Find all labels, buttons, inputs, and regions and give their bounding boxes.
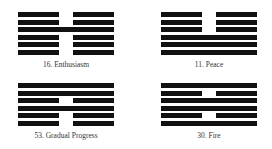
solid-line [161,83,257,88]
broken-line [161,27,257,32]
solid-line [18,91,114,96]
hexagram-11: 11. Peace [161,12,257,55]
broken-line [18,98,114,103]
broken-line [18,20,114,25]
solid-line [18,27,114,32]
hexagram-16: 16. Enthusiasm [18,12,114,55]
hexagram-label: 16. Enthusiasm [18,60,114,69]
solid-line [18,106,114,111]
solid-line [161,98,257,103]
broken-line [18,121,114,126]
solid-line [161,42,257,47]
broken-line [18,113,114,118]
hexagram-53: 53. Gradual Progress [18,83,114,126]
broken-line [18,42,114,47]
hexagram-lines [18,83,114,126]
solid-line [161,121,257,126]
hexagram-label: 11. Peace [161,60,257,69]
broken-line [18,50,114,55]
hexagram-lines [18,12,114,55]
broken-line [18,35,114,40]
hexagram-label: 30. Fire [161,131,257,140]
broken-line [161,12,257,17]
broken-line [18,12,114,17]
solid-line [18,83,114,88]
hexagram-lines [161,83,257,126]
solid-line [161,35,257,40]
solid-line [161,50,257,55]
broken-line [161,20,257,25]
hexagram-30: 30. Fire [161,83,257,126]
hexagram-label: 53. Gradual Progress [18,131,114,140]
hexagram-lines [161,12,257,55]
solid-line [161,106,257,111]
broken-line [161,113,257,118]
broken-line [161,91,257,96]
